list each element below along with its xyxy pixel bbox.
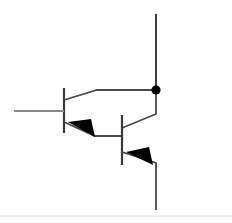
circuit-schematic-canvas <box>0 0 232 223</box>
junction-dot <box>151 85 160 94</box>
schematic-svg <box>0 0 232 223</box>
